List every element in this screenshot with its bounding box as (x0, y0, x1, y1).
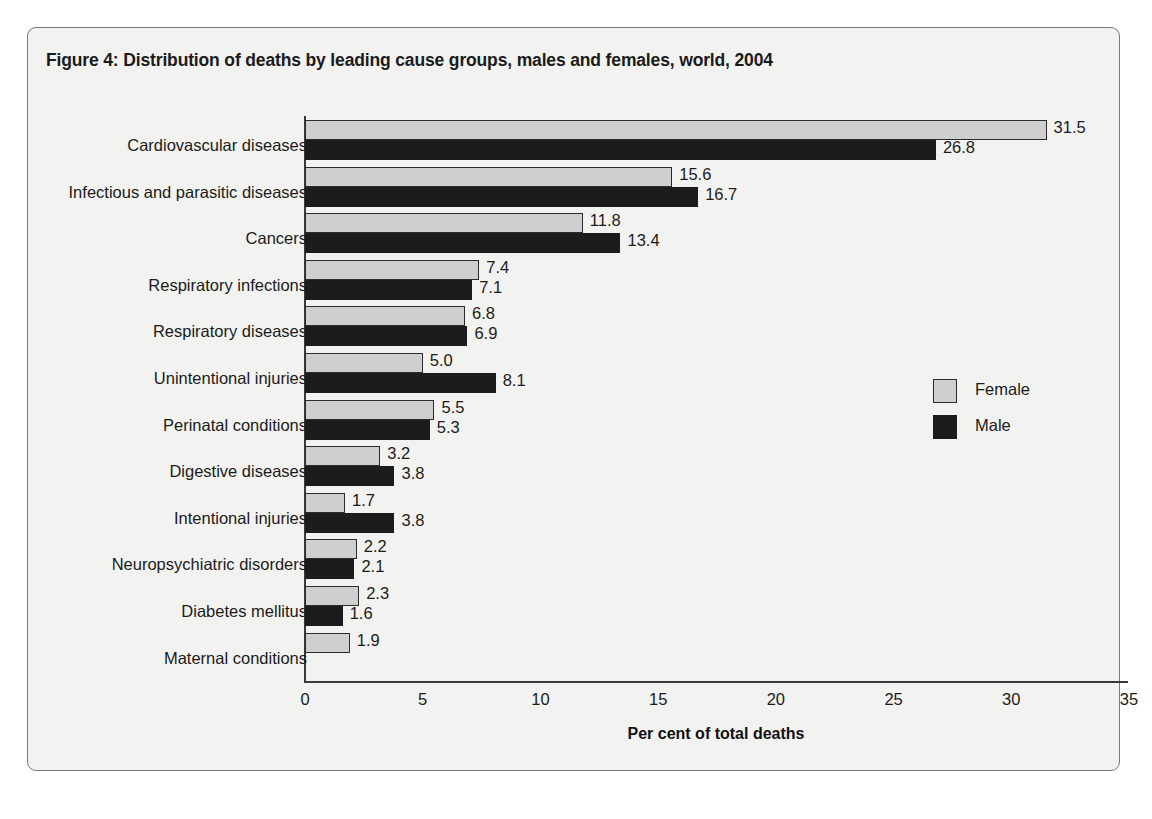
category-label: Digestive diseases (47, 462, 307, 481)
bar-value-label: 5.0 (430, 351, 453, 370)
chart-category-row: Intentional injuries1.73.8 (28, 493, 1121, 540)
bar-value-label: 3.2 (387, 444, 410, 463)
x-tick-label: 35 (1120, 690, 1138, 709)
bar-value-label: 26.8 (943, 138, 975, 157)
bar-male (305, 233, 620, 253)
bar-value-label: 6.9 (474, 324, 497, 343)
bar-value-label: 13.4 (627, 231, 659, 250)
bar-value-label: 8.1 (503, 371, 526, 390)
chart-category-row: Maternal conditions1.9 (28, 633, 1121, 680)
chart-category-row: Respiratory diseases6.86.9 (28, 306, 1121, 353)
category-label: Perinatal conditions (47, 416, 307, 435)
bar-female (305, 446, 380, 466)
bar-male (305, 140, 936, 160)
bar-value-label: 2.2 (364, 537, 387, 556)
bar-male (305, 326, 467, 346)
bar-female (305, 213, 583, 233)
x-tick-label: 30 (1002, 690, 1020, 709)
bar-value-label: 15.6 (679, 165, 711, 184)
x-tick-label: 5 (418, 690, 427, 709)
chart-category-row: Cancers11.813.4 (28, 213, 1121, 260)
bar-value-label: 1.7 (352, 491, 375, 510)
bar-male (305, 606, 343, 626)
category-label: Cancers (47, 229, 307, 248)
bar-value-label: 7.1 (479, 278, 502, 297)
bar-value-label: 6.8 (472, 304, 495, 323)
chart-category-row: Cardiovascular diseases31.526.8 (28, 120, 1121, 167)
category-label: Maternal conditions (47, 649, 307, 668)
bar-male (305, 187, 698, 207)
bar-female (305, 306, 465, 326)
bar-male (305, 559, 354, 579)
category-label: Intentional injuries (47, 509, 307, 528)
bar-female (305, 260, 479, 280)
category-label: Respiratory diseases (47, 322, 307, 341)
chart-category-row: Infectious and parasitic diseases15.616.… (28, 167, 1121, 214)
category-label: Cardiovascular diseases (47, 136, 307, 155)
x-axis-line (304, 681, 1128, 683)
figure-panel: Figure 4: Distribution of deaths by lead… (27, 27, 1120, 771)
legend-swatch-male (933, 415, 957, 439)
x-tick-label: 15 (649, 690, 667, 709)
bar-male (305, 466, 394, 486)
x-tick-label: 25 (884, 690, 902, 709)
bar-value-label: 5.3 (437, 418, 460, 437)
bar-value-label: 2.1 (361, 557, 384, 576)
legend-swatch-female (933, 379, 957, 403)
bar-female (305, 586, 359, 606)
chart-category-row: Digestive diseases3.23.8 (28, 446, 1121, 493)
bar-value-label: 5.5 (441, 398, 464, 417)
chart-category-row: Diabetes mellitus2.31.6 (28, 586, 1121, 633)
bar-value-label: 1.9 (357, 631, 380, 650)
chart-category-row: Perinatal conditions5.55.3 (28, 400, 1121, 447)
chart-category-row: Respiratory infections7.47.1 (28, 260, 1121, 307)
bar-value-label: 2.3 (366, 584, 389, 603)
bar-male (305, 280, 472, 300)
x-tick-label: 10 (531, 690, 549, 709)
category-label: Respiratory infections (47, 276, 307, 295)
bar-value-label: 1.6 (350, 604, 373, 623)
bar-female (305, 633, 350, 653)
chart-category-row: Neuropsychiatric disorders2.22.1 (28, 539, 1121, 586)
legend-label: Female (975, 380, 1030, 399)
bar-female (305, 400, 434, 420)
bar-value-label: 7.4 (486, 258, 509, 277)
bar-value-label: 3.8 (401, 464, 424, 483)
category-label: Diabetes mellitus (47, 602, 307, 621)
category-label: Neuropsychiatric disorders (47, 555, 307, 574)
x-tick-label: 20 (767, 690, 785, 709)
bar-value-label: 3.8 (401, 511, 424, 530)
bar-value-label: 16.7 (705, 185, 737, 204)
bar-value-label: 31.5 (1054, 118, 1086, 137)
category-label: Unintentional injuries (47, 369, 307, 388)
bar-female (305, 353, 423, 373)
legend-label: Male (975, 416, 1011, 435)
bar-female (305, 167, 672, 187)
bar-male (305, 373, 496, 393)
bar-female (305, 120, 1047, 140)
chart-category-row: Unintentional injuries5.08.1 (28, 353, 1121, 400)
x-axis-title: Per cent of total deaths (304, 725, 1128, 743)
bar-male (305, 420, 430, 440)
x-tick-label: 0 (300, 690, 309, 709)
bar-male (305, 513, 394, 533)
bar-value-label: 11.8 (590, 211, 621, 230)
chart-plot-area: 05101520253035 Per cent of total deaths … (28, 28, 1121, 772)
bar-female (305, 493, 345, 513)
bar-female (305, 539, 357, 559)
category-label: Infectious and parasitic diseases (47, 183, 307, 202)
